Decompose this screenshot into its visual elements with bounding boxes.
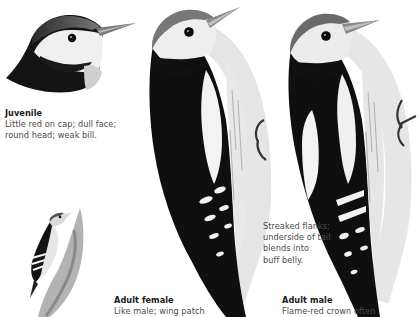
- juvenile-caption-line: Little red on cap; dull face;: [5, 119, 116, 130]
- flanks-caption-line: Streaked flanks;: [263, 221, 330, 232]
- flanks-caption: Streaked flanks; underside of tail blend…: [263, 221, 330, 266]
- juvenile-head-illustration: [0, 0, 140, 100]
- adult-female-caption-line: Like male; wing patch: [114, 306, 205, 317]
- adult-female-illustration: [140, 0, 275, 317]
- adult-male-caption: Adult male Flame-red crown often: [282, 295, 375, 317]
- adult-male-illustration: [280, 0, 418, 317]
- juvenile-caption-line: round head; weak bill.: [5, 130, 116, 141]
- adult-male-title: Adult male: [282, 295, 375, 306]
- flanks-caption-line: underside of tail: [263, 232, 330, 243]
- juvenile-title: Juvenile: [5, 108, 116, 119]
- adult-male-caption-line: Flame-red crown often: [282, 306, 375, 317]
- juvenile-caption: Juvenile Little red on cap; dull face; r…: [5, 108, 116, 142]
- adult-female-caption: Adult female Like male; wing patch: [114, 295, 205, 317]
- small-perched-illustration: [20, 200, 90, 317]
- adult-female-title: Adult female: [114, 295, 205, 306]
- flanks-caption-line: blends into: [263, 243, 330, 254]
- flanks-caption-line: buff belly.: [263, 255, 330, 266]
